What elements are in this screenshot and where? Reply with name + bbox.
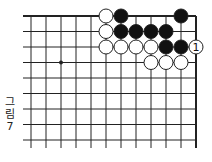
white-stone [99, 9, 113, 23]
black-stone [174, 40, 188, 54]
white-stone [114, 40, 128, 54]
white-stone [174, 56, 188, 70]
white-stone [159, 56, 173, 70]
white-stone [129, 40, 143, 54]
white-stone [99, 40, 113, 54]
black-stone [159, 40, 173, 54]
star-point [59, 61, 63, 65]
go-board: 1 [0, 0, 212, 162]
figure-caption: 그 림 7 [2, 97, 18, 133]
caption-number: 7 [2, 121, 18, 133]
white-stone: 1 [189, 40, 203, 54]
black-stone [144, 25, 158, 39]
star-points [59, 61, 63, 65]
black-stone [114, 9, 128, 23]
white-stone [144, 56, 158, 70]
white-stone [144, 40, 158, 54]
white-stone [99, 25, 113, 39]
black-stone [159, 25, 173, 39]
black-stone [114, 25, 128, 39]
black-stone [174, 9, 188, 23]
move-number-label: 1 [193, 41, 200, 54]
black-stone [129, 25, 143, 39]
